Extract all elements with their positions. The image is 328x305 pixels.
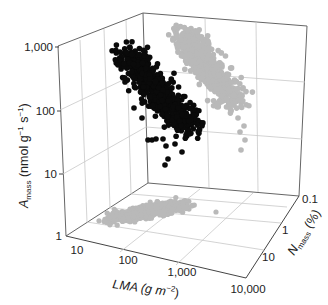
3d-scatter-chart: 1,000 100 10 1 10 100 1,000 10,000 0.1 1… — [0, 0, 328, 305]
x-tick-10000: 10,000 — [230, 283, 265, 295]
x-tick-10: 10 — [71, 244, 84, 256]
y-tick-1: 1 — [282, 224, 288, 236]
z-axis-label: Amass (nmol g−1 s−1) — [16, 103, 33, 209]
z-tick-10: 10 — [44, 168, 57, 180]
x-tick-1000: 1,000 — [168, 266, 197, 278]
z-tick-1000: 1,000 — [24, 41, 53, 53]
x-axis-label: LMA (g m−2) — [112, 276, 180, 300]
y-tick-10: 10 — [262, 251, 275, 263]
y-tick-0.1: 0.1 — [302, 193, 318, 205]
y-axis-label: Nmass (%) — [285, 207, 326, 259]
x-tick-100: 100 — [118, 254, 137, 266]
z-tick-1: 1 — [56, 230, 62, 242]
z-tick-100: 100 — [36, 105, 55, 117]
